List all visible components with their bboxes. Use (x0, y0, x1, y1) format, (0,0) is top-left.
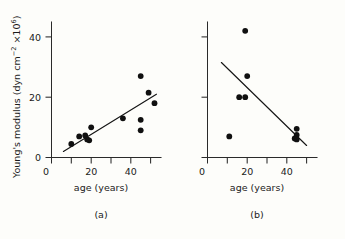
panel-b: 0 20 40 age (years) (b) (173, 0, 345, 239)
data-point (294, 126, 300, 132)
data-point (138, 117, 144, 123)
data-point (294, 137, 300, 143)
x-tick-label-20: 20 (241, 166, 253, 177)
x-axis-title: age (years) (74, 182, 128, 193)
y-axis-title-end: ) (11, 16, 22, 20)
data-point (236, 94, 242, 100)
data-point (68, 141, 74, 147)
y-axis-title-exponent-units: −2 (10, 47, 18, 57)
data-point (120, 115, 126, 121)
x-tick-label-40: 40 (281, 166, 293, 177)
y-axis-title: Young's modulus (dyn cm−2 ×106) (10, 16, 22, 179)
regression-line (63, 94, 156, 151)
data-point (242, 28, 248, 34)
data-point (138, 127, 144, 133)
panel-caption-a: (a) (94, 209, 107, 220)
y-axis-title-mid: ×10 (11, 24, 22, 47)
data-point (244, 73, 250, 79)
x-axis-title: age (years) (230, 182, 284, 193)
data-point (226, 134, 232, 140)
regression-line (221, 63, 306, 146)
data-point (86, 137, 92, 143)
x-tick-label-40: 40 (125, 166, 137, 177)
scatter-plot-figure: Young's modulus (dyn cm−2 ×106) 0 20 40 … (0, 0, 345, 239)
data-point (88, 124, 94, 130)
x-tick-label-0: 0 (43, 166, 49, 177)
data-point (76, 134, 82, 140)
data-point (152, 100, 158, 106)
y-axis-title-main: Young's modulus (dyn cm (11, 56, 22, 179)
y-tick-label-20: 20 (29, 92, 41, 103)
y-tick-label-0: 0 (35, 152, 41, 163)
data-point (146, 90, 152, 96)
x-tick-label-0: 0 (199, 166, 205, 177)
x-tick-label-20: 20 (85, 166, 97, 177)
data-point (138, 73, 144, 79)
panel-b-svg: 0 20 40 age (years) (b) (173, 0, 345, 239)
panel-caption-b: (b) (250, 209, 263, 220)
data-point (242, 94, 248, 100)
y-tick-label-40: 40 (29, 32, 41, 43)
svg-text:Young's modulus (dyn cm−2 ×106: Young's modulus (dyn cm−2 ×106) (10, 16, 22, 179)
panel-a: Young's modulus (dyn cm−2 ×106) 0 20 40 … (0, 0, 172, 239)
panel-a-svg: Young's modulus (dyn cm−2 ×106) 0 20 40 … (0, 0, 172, 239)
